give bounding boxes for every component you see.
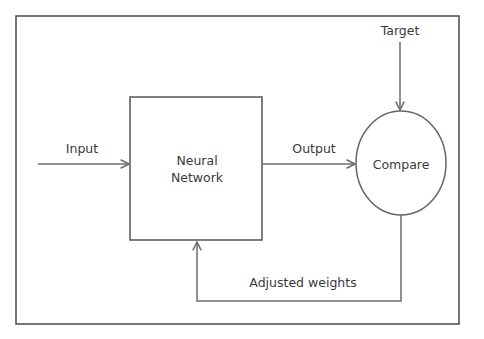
input-label: Input — [66, 141, 98, 156]
output-label: Output — [292, 141, 335, 156]
adjusted-weights-label: Adjusted weights — [249, 275, 356, 290]
target-label: Target — [381, 23, 420, 38]
nn-label-line2: Network — [171, 170, 223, 185]
compare-label: Compare — [373, 157, 430, 172]
nn-label-line1: Neural — [176, 153, 217, 168]
neural-network-box — [130, 97, 262, 240]
